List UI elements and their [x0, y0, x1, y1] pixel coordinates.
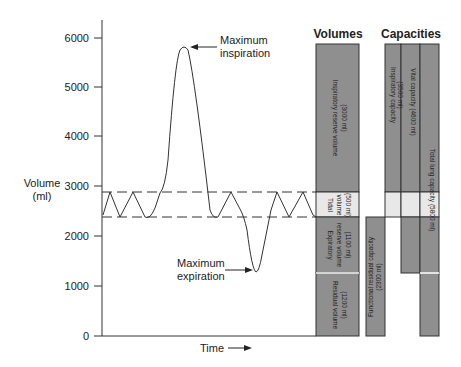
spirogram-curve	[103, 47, 316, 272]
max-inspiration-label-1: Maximum	[220, 34, 268, 46]
max-inspiration-label-2: inspiration	[220, 47, 270, 59]
tv-value: (500 ml)	[344, 193, 352, 217]
erv-label-2: reserve volume	[336, 223, 343, 268]
volumes-header: Volumes	[313, 27, 362, 41]
ytick-2000: 2000	[65, 230, 89, 242]
max-expiration-label-1: Maximum	[177, 257, 225, 269]
y-axis	[94, 20, 316, 336]
ytick-3000: 3000	[65, 180, 89, 192]
max-expiration-arrow	[225, 267, 253, 273]
rv-value: (1200 ml)	[340, 291, 348, 318]
erv-label-1: Expiratory	[326, 230, 334, 260]
time-arrow	[228, 345, 252, 351]
tv-label-1: Tidal	[327, 198, 334, 212]
ytick-1000: 1000	[65, 280, 89, 292]
max-expiration-label-2: expiration	[177, 270, 225, 282]
rv-label: Residual volume	[332, 281, 339, 329]
frc-label: Functional residual capacity	[367, 236, 375, 317]
erv-value: (1100 ml)	[344, 232, 352, 259]
x-axis-label: Time	[200, 342, 224, 354]
ytick-0: 0	[83, 330, 89, 342]
y-axis-unit: (ml)	[33, 190, 52, 202]
ytick-6000: 6000	[65, 32, 89, 44]
max-inspiration-arrow	[190, 44, 217, 50]
ytick-4000: 4000	[65, 130, 89, 142]
irv-label: Inspiratory reserve volume	[331, 80, 339, 157]
vc-label: Vital capacity (4600 ml)	[409, 68, 417, 135]
lung-volume-diagram: 6000 5000 4000 3000 2000 1000 0 Volume (…	[0, 0, 461, 367]
ytick-5000: 5000	[65, 81, 89, 93]
ic-label: Inspiratory capacity	[389, 67, 397, 124]
irv-value: (3000 ml)	[340, 104, 348, 131]
ic-value: (3500 ml)	[396, 81, 404, 108]
tlc-label: Total lung capacity (5800 ml)	[428, 149, 436, 232]
y-axis-label: Volume	[24, 177, 61, 189]
frc-value: (2300 ml)	[375, 263, 383, 290]
tv-label-2: volume	[336, 195, 343, 216]
capacities-header: Capacities	[381, 27, 441, 41]
